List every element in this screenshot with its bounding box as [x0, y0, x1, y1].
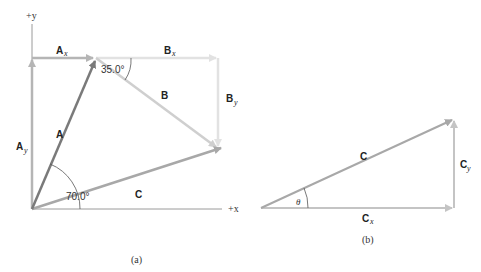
label-B: B: [161, 90, 168, 101]
svg-text:x: x: [369, 217, 374, 226]
label-By: B y: [226, 93, 238, 107]
label-Bx: B x: [164, 45, 176, 58]
svg-text:B: B: [226, 93, 233, 104]
label-Ax: A x: [56, 45, 68, 58]
figure-a: +y +x 70.0° 35.0° A B C A x A y: [16, 10, 239, 266]
angle-label-35: 35.0°: [101, 64, 124, 75]
vector-diagram: +y +x 70.0° 35.0° A B C A x A y: [0, 0, 481, 272]
label-C: C: [135, 189, 142, 200]
vector-C: [32, 148, 221, 209]
label-Ay: A y: [16, 141, 28, 155]
label-C-b: C: [360, 151, 367, 162]
label-Cx: C x: [362, 213, 374, 226]
vector-C-b: [261, 120, 452, 208]
x-axis-label: +x: [228, 203, 239, 214]
svg-text:y: y: [466, 164, 471, 173]
svg-text:x: x: [171, 49, 176, 58]
angle-arc-35: [125, 58, 131, 80]
svg-text:x: x: [63, 49, 68, 58]
theta-label: θ: [296, 197, 301, 207]
caption-a: (a): [131, 254, 142, 266]
svg-text:A: A: [16, 141, 23, 152]
svg-text:C: C: [362, 213, 369, 224]
label-A: A: [56, 129, 63, 140]
svg-text:B: B: [164, 45, 171, 56]
svg-text:y: y: [233, 98, 238, 107]
vector-A: [32, 61, 95, 209]
theta-arc: [304, 188, 308, 208]
figure-b: θ C C x C y (b): [261, 120, 471, 246]
svg-text:A: A: [56, 45, 63, 56]
svg-text:y: y: [23, 146, 28, 155]
label-Cy: C y: [460, 159, 471, 173]
caption-b: (b): [362, 234, 374, 246]
angle-label-70: 70.0°: [66, 191, 89, 202]
y-axis-label: +y: [26, 10, 37, 21]
